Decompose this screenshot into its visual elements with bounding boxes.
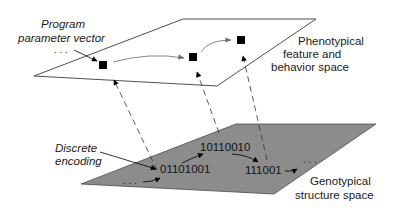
genotype-ellipsis-start: . . . [123, 175, 137, 186]
genotype-phenotype-diagram: Program parameter vector . . . Phenotypi… [0, 0, 396, 210]
phenotype-point-2 [189, 53, 197, 61]
encoding-3: 111001 [245, 164, 282, 176]
genotype-label-line1: Genotypical [310, 175, 371, 187]
program-label-line2: parameter vector [17, 32, 106, 44]
phenotype-point-3 [237, 36, 245, 44]
mapping-line-1 [114, 80, 157, 170]
phenotype-label-line1: Phenotypical [298, 35, 364, 47]
genotype-label-line2: structure space [295, 189, 374, 201]
phenotype-ellipsis: . . . [54, 44, 68, 55]
genotype-ellipsis-end: . . . [303, 154, 317, 165]
phenotype-point-1 [99, 61, 107, 69]
phenotype-label-line2: feature and [283, 48, 341, 60]
encoding-label-line1: Discrete [55, 142, 97, 154]
encoding-2: 10110010 [200, 141, 250, 153]
encoding-label-line2: encoding [55, 155, 102, 167]
phenotype-label-line3: behavior space [271, 61, 349, 73]
program-label-line1: Program [41, 18, 86, 30]
encoding-1: 01101001 [160, 163, 210, 175]
